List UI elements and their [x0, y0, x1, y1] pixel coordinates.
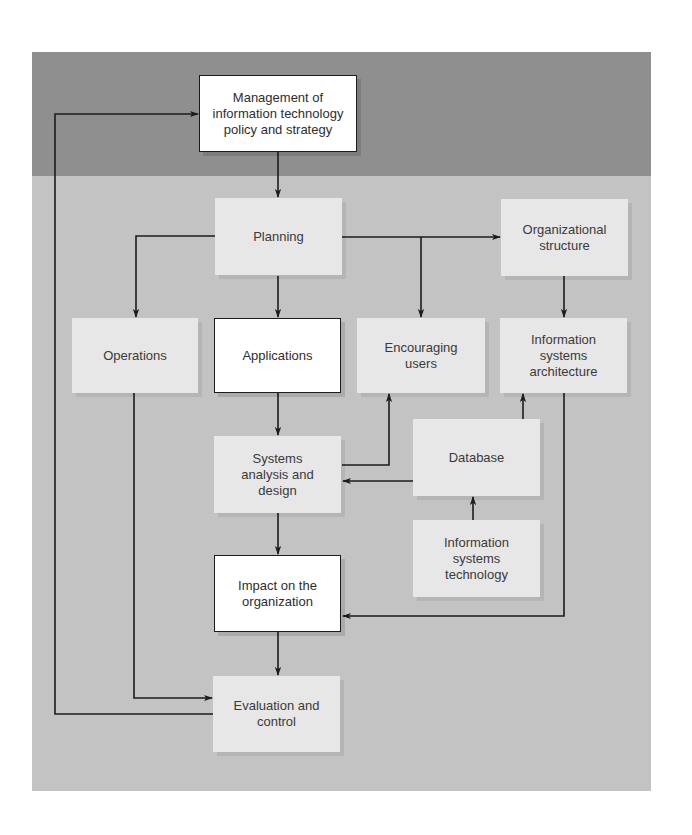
node-label: Encouraging users	[385, 340, 458, 372]
node-label: Organizational structure	[523, 222, 607, 254]
node-applications: Applications	[214, 318, 341, 393]
node-operations: Operations	[72, 318, 198, 393]
node-is-architecture: Information systems architecture	[500, 318, 627, 393]
node-organizational-structure: Organizational structure	[501, 199, 628, 276]
node-database: Database	[413, 419, 540, 496]
node-label: Database	[449, 450, 505, 466]
node-label: Management of information technology pol…	[213, 90, 344, 138]
node-management-it-policy: Management of information technology pol…	[199, 75, 357, 152]
node-label: Information systems architecture	[530, 332, 598, 380]
node-is-technology: Information systems technology	[413, 520, 540, 597]
node-systems-analysis-design: Systems analysis and design	[214, 436, 341, 513]
node-encouraging-users: Encouraging users	[357, 318, 485, 393]
node-impact-on-organization: Impact on the organization	[214, 555, 341, 632]
node-label: Applications	[242, 348, 312, 364]
node-label: Evaluation and control	[233, 698, 319, 730]
node-evaluation-control: Evaluation and control	[213, 676, 340, 752]
node-label: Information systems technology	[444, 535, 509, 583]
node-label: Systems analysis and design	[241, 451, 313, 499]
node-planning: Planning	[215, 198, 342, 275]
node-label: Planning	[253, 229, 304, 245]
node-label: Operations	[103, 348, 167, 364]
node-label: Impact on the organization	[238, 578, 317, 610]
